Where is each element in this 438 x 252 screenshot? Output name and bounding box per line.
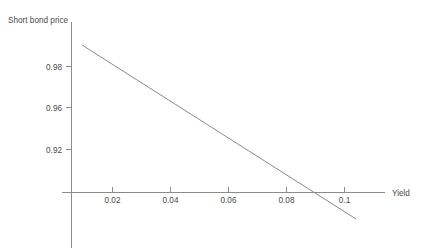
x-tick-label-2: 0.06 bbox=[221, 196, 237, 205]
y-tick-label-1: 0.96 bbox=[46, 104, 62, 113]
y-axis-title: Short bond price bbox=[8, 16, 69, 25]
y-tick-label-2: 0.92 bbox=[46, 146, 62, 155]
x-axis-title: Yield bbox=[392, 189, 410, 198]
x-tick-label-0: 0.02 bbox=[105, 196, 121, 205]
short-bond-price-yield-chart: Short bond price Yield 0.98 0.96 0.92 0.… bbox=[0, 0, 438, 252]
x-tick-label-3: 0.08 bbox=[279, 196, 295, 205]
x-tick-label-4: 0.1 bbox=[339, 196, 351, 205]
y-tick-label-0: 0.98 bbox=[46, 63, 62, 72]
chart-container: Short bond price Yield 0.98 0.96 0.92 0.… bbox=[0, 0, 438, 252]
x-tick-label-1: 0.04 bbox=[163, 196, 179, 205]
